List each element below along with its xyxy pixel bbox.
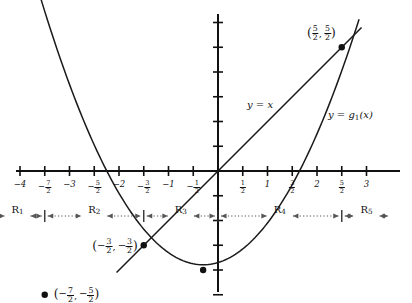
region-number-line — [0, 210, 388, 222]
region-arrow-head — [194, 213, 200, 218]
x-tick-label: −32 — [137, 180, 150, 195]
math-figure: −4−72−3−52−2−32−1−12121322523 (−72, −52)… — [0, 0, 412, 303]
data-point — [42, 292, 48, 298]
x-tick-label: 2 — [314, 180, 319, 189]
region-arrow-head — [0, 213, 5, 218]
region-arrow-head — [221, 213, 227, 218]
identity-line-curve — [117, 27, 362, 272]
region-arrow-head — [348, 213, 354, 218]
graph-canvas — [0, 0, 412, 303]
region-arrow-head — [210, 213, 216, 218]
x-tick-label: 1 — [265, 180, 270, 189]
region-arrow-head — [147, 213, 153, 218]
x-tick-label: −12 — [187, 180, 200, 195]
data-point — [339, 44, 345, 50]
x-tick-label: 3 — [364, 180, 369, 189]
region-arrow-head — [135, 213, 141, 218]
region-arrow-head — [76, 213, 82, 218]
region-arrow-head — [333, 213, 339, 218]
region-arrow-head — [261, 213, 267, 218]
x-tick-label: −52 — [88, 180, 101, 195]
x-tick-label: 32 — [289, 180, 295, 195]
x-tick-label: 12 — [240, 180, 246, 195]
x-tick-label: −4 — [14, 180, 27, 189]
region-label-r5: R5 — [360, 205, 372, 216]
curve-label-identity-line: y = x — [247, 100, 273, 110]
data-point — [141, 242, 147, 248]
x-tick-label: −1 — [162, 180, 175, 189]
data-point — [200, 267, 206, 273]
x-tick-label: 52 — [339, 180, 345, 195]
x-tick-label: −2 — [113, 180, 126, 189]
point-label-lower-left: (−32, −32) — [92, 238, 137, 255]
x-tick-label: −3 — [63, 180, 76, 189]
region-arrow-head — [293, 213, 299, 218]
region-arrow-head — [107, 213, 113, 218]
region-label-r2: R2 — [88, 205, 100, 216]
region-arrow-head — [31, 213, 37, 218]
region-arrow-head — [48, 213, 54, 218]
curve-label-parabola: y = g1(x) — [328, 110, 373, 121]
region-arrow-head — [36, 213, 42, 218]
region-arrow-head — [383, 213, 389, 218]
x-tick-label: −72 — [38, 180, 51, 195]
point-label-upper-left: (−72, −52) — [54, 287, 99, 303]
region-label-r4: R4 — [274, 205, 286, 216]
region-label-r3: R3 — [175, 205, 187, 216]
region-label-r1: R1 — [11, 205, 23, 216]
point-label-upper-right: (52, 52) — [307, 25, 336, 42]
region-arrow-head — [162, 213, 168, 218]
